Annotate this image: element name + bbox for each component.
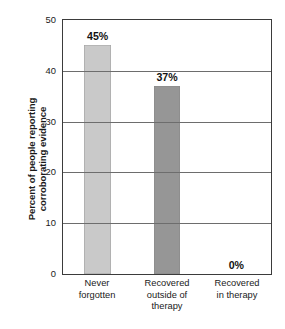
plot-area: 45% 37% 0% (62, 19, 272, 275)
x-axis-category-labels: Never forgotten Recovered outside of the… (62, 278, 272, 326)
gridline-20 (63, 172, 271, 173)
bar-chart-figure: Percent of people reporting corroboratin… (0, 0, 285, 329)
y-tick-label-50: 50 (30, 14, 56, 25)
value-label-never-forgotten: 45% (63, 30, 132, 42)
x-category-line: in therapy (202, 290, 272, 302)
bar-fill-recovered-outside-of-therapy (154, 86, 181, 274)
y-tick-label-40: 40 (30, 64, 56, 75)
x-category-line: Recovered (202, 278, 272, 290)
x-category-line: Never (62, 278, 132, 290)
y-tick-label-10: 10 (30, 217, 56, 228)
value-label-recovered-outside-of-therapy: 37% (132, 71, 201, 83)
gridline-10 (63, 223, 271, 224)
bar-never-forgotten (84, 45, 111, 274)
x-category-recovered-outside-of-therapy: Recovered outside of therapy (132, 278, 202, 326)
x-category-never-forgotten: Never forgotten (62, 278, 132, 326)
y-tick-label-20: 20 (30, 166, 56, 177)
y-tick-label-30: 30 (30, 115, 56, 126)
bar-recovered-outside-of-therapy (154, 86, 181, 274)
value-label-recovered-in-therapy: 0% (202, 259, 271, 271)
x-category-line: therapy (132, 301, 202, 313)
gridline-30 (63, 122, 271, 123)
x-category-recovered-in-therapy: Recovered in therapy (202, 278, 272, 326)
y-axis-tick-labels: 0 10 20 30 40 50 (0, 0, 62, 329)
bar-fill-never-forgotten (84, 45, 111, 274)
x-category-line: outside of (132, 290, 202, 302)
y-tick-label-0: 0 (30, 268, 56, 279)
x-category-line: forgotten (62, 290, 132, 302)
x-category-line: Recovered (132, 278, 202, 290)
